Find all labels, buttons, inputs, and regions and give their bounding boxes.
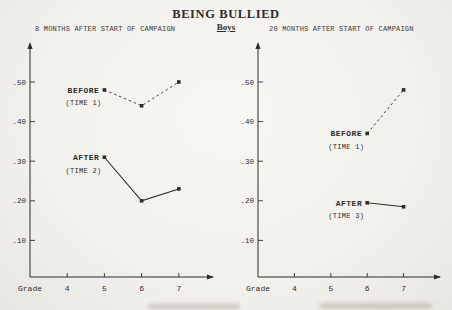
series-line-after — [367, 203, 403, 207]
y-axis-arrow-icon — [255, 42, 260, 49]
y-tick-label: .50 — [12, 79, 26, 87]
series-label-after: AFTER — [73, 153, 100, 162]
x-tick-label: 7 — [401, 284, 406, 293]
y-tick-label: .40 — [12, 118, 26, 126]
data-point-marker — [177, 80, 181, 84]
series-sublabel-before: (TIME 1) — [328, 143, 364, 151]
series-label-after: AFTER — [336, 199, 363, 208]
x-tick-label: 7 — [176, 284, 181, 293]
data-point-marker — [365, 132, 369, 136]
y-tick-label: .10 — [12, 237, 26, 245]
data-point-marker — [140, 104, 144, 108]
x-tick-label: 5 — [102, 284, 107, 293]
x-tick-label: 4 — [292, 284, 297, 293]
y-tick-label: .40 — [240, 118, 254, 126]
x-tick-label: 5 — [328, 284, 333, 293]
data-point-marker — [402, 205, 406, 209]
cropped-caption-artifact-right — [320, 303, 432, 309]
series-line-after — [104, 157, 178, 201]
data-point-marker — [103, 155, 107, 159]
x-tick-label: 4 — [65, 284, 70, 293]
series-sublabel-after: (TIME 2) — [65, 167, 101, 175]
series-label-before: BEFORE — [330, 129, 362, 138]
y-tick-label: .10 — [240, 237, 254, 245]
y-tick-label: .20 — [240, 197, 254, 205]
data-point-marker — [103, 88, 107, 92]
y-tick-label: .20 — [12, 197, 26, 205]
x-axis-label: Grade — [18, 284, 42, 293]
series-label-before: BEFORE — [68, 86, 100, 95]
cropped-caption-artifact-left — [148, 304, 240, 309]
y-axis-arrow-icon — [27, 42, 32, 49]
series-sublabel-after: (TIME 3) — [328, 212, 364, 220]
x-tick-label: 6 — [139, 284, 144, 293]
x-axis-arrow-icon — [434, 274, 441, 279]
series-line-before — [367, 90, 403, 134]
line-charts-canvas: .10.20.30.40.504567GradeBEFORE(TIME 1)AF… — [0, 0, 452, 310]
data-point-marker — [140, 199, 144, 203]
x-tick-label: 6 — [365, 284, 370, 293]
data-point-marker — [177, 187, 181, 191]
y-tick-label: .30 — [12, 158, 26, 166]
y-tick-label: .30 — [240, 158, 254, 166]
series-sublabel-before: (TIME 1) — [65, 99, 101, 107]
data-point-marker — [402, 88, 406, 92]
series-line-before — [104, 82, 178, 106]
y-tick-label: .50 — [240, 79, 254, 87]
x-axis-arrow-icon — [207, 274, 214, 279]
data-point-marker — [365, 201, 369, 205]
x-axis-label: Grade — [246, 284, 270, 293]
scanned-chart-page: { "page": { "title": "BEING BULLIED", "g… — [0, 0, 452, 310]
